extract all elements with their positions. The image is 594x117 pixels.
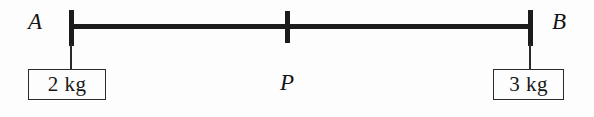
point-label-b: B	[552, 10, 566, 33]
point-label-p: P	[280, 71, 294, 94]
tick-mark-b	[528, 10, 533, 46]
horizontal-beam	[70, 24, 531, 29]
mass-box-right: 3 kg	[493, 69, 564, 100]
tick-mark-p	[285, 11, 290, 43]
lever-diagram: A P B 2 kg 3 kg	[0, 0, 594, 117]
hanger-line-left	[70, 44, 72, 70]
mass-box-left: 2 kg	[28, 69, 106, 100]
tick-mark-a	[69, 10, 74, 46]
hanger-line-right	[529, 44, 531, 70]
point-label-a: A	[28, 10, 42, 33]
